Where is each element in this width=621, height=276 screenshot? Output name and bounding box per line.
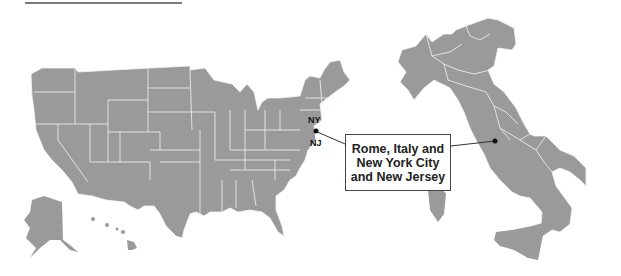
- rome-marker: [493, 139, 498, 144]
- callout-box: Rome, Italy and New York City and New Je…: [345, 134, 451, 191]
- alaska-map: [24, 196, 78, 258]
- new-york-city-marker: [314, 129, 319, 134]
- hawaii-map: [91, 217, 137, 250]
- label-ny: NY: [308, 116, 321, 125]
- callout-text: Rome, Italy and New York City and New Je…: [351, 142, 446, 184]
- label-nj: NJ: [310, 139, 322, 148]
- usa-map: [31, 60, 350, 238]
